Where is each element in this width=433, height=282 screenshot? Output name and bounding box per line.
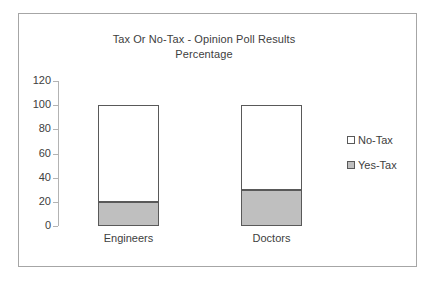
chart-title: Tax Or No-Tax - Opinion Poll Results Per… [59, 32, 349, 62]
y-axis-tick-mark [53, 178, 58, 179]
chart-title-line-1: Tax Or No-Tax - Opinion Poll Results [59, 32, 349, 47]
legend-item-yes-tax[interactable]: Yes-Tax [347, 159, 427, 171]
chart-title-line-2: Percentage [59, 47, 349, 62]
y-axis-tick-mark [53, 81, 58, 82]
y-axis-tick-label: 60 [21, 147, 51, 159]
bar-segment-no-tax-engineers[interactable] [98, 105, 159, 202]
y-axis-tick-mark [53, 154, 58, 155]
legend-label-no-tax: No-Tax [358, 134, 393, 146]
bar-doctors[interactable] [241, 81, 302, 226]
y-axis-tick-mark [53, 105, 58, 106]
bar-engineers[interactable] [98, 81, 159, 226]
y-axis-tick-label: 20 [21, 195, 51, 207]
y-axis-tick-label: 80 [21, 122, 51, 134]
y-axis-tick-mark [53, 202, 58, 203]
category-label-engineers: Engineers [98, 232, 159, 244]
legend-label-yes-tax: Yes-Tax [358, 159, 397, 171]
bar-segment-yes-tax-doctors[interactable] [241, 190, 302, 226]
y-axis-tick-mark [53, 129, 58, 130]
legend-swatch-yes-tax-icon [347, 161, 355, 169]
category-label-doctors: Doctors [241, 232, 302, 244]
y-axis-labels: 120100806040200 [19, 81, 51, 226]
bar-segment-no-tax-doctors[interactable] [241, 105, 302, 190]
legend-swatch-no-tax-icon [347, 136, 355, 144]
chart-container: Tax Or No-Tax - Opinion Poll Results Per… [18, 13, 417, 267]
y-axis-tick-label: 100 [21, 98, 51, 110]
y-axis-tick-label: 120 [21, 74, 51, 86]
y-axis-line [58, 81, 59, 226]
chart-legend: No-Tax Yes-Tax [347, 134, 427, 184]
bar-segment-yes-tax-engineers[interactable] [98, 202, 159, 226]
y-axis-tick-mark [53, 226, 58, 227]
legend-item-no-tax[interactable]: No-Tax [347, 134, 427, 146]
y-axis-tick-label: 40 [21, 171, 51, 183]
y-axis-tick-label: 0 [21, 219, 51, 231]
